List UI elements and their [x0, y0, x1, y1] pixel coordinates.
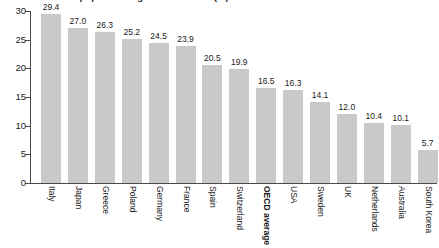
- category-label-text: Germany: [154, 186, 163, 221]
- category-label-text: Poland: [127, 186, 136, 212]
- category-label-text: Sweden: [316, 186, 325, 217]
- bar[interactable]: [229, 69, 249, 183]
- bar[interactable]: [95, 32, 115, 183]
- bar[interactable]: [418, 150, 438, 183]
- bar-value-label: 10.1: [385, 114, 417, 123]
- category-label-south-korea: South Korea: [418, 186, 438, 248]
- category-label-greece: Greece: [95, 186, 115, 248]
- bar-column[interactable]: 24.5: [149, 11, 169, 183]
- bar[interactable]: [364, 123, 384, 183]
- bar-value-label: 5.7: [412, 139, 439, 148]
- bar-column[interactable]: 26.3: [95, 11, 115, 183]
- bar-series: 29.427.026.325.224.523.920.519.916.516.3…: [30, 11, 437, 183]
- category-label-netherlands: Netherlands: [364, 186, 384, 248]
- category-label-text: Spain: [208, 186, 217, 208]
- bar-value-label: 16.3: [277, 79, 309, 88]
- y-tick-label: 20: [15, 62, 26, 73]
- y-tick-label: 25: [15, 34, 26, 45]
- category-label-text: France: [181, 186, 190, 212]
- category-label-text: OECD average: [262, 186, 271, 245]
- plot-area: 051015202530 29.427.026.325.224.523.920.…: [30, 11, 437, 183]
- category-label-text: South Korea: [423, 186, 432, 233]
- bar-column[interactable]: 10.4: [364, 11, 384, 183]
- bar-column[interactable]: 19.9: [229, 11, 249, 183]
- bar-column[interactable]: 25.2: [122, 11, 142, 183]
- bar[interactable]: [68, 28, 88, 183]
- bar-column[interactable]: 23.9: [176, 11, 196, 183]
- category-label-italy: Italy: [41, 186, 61, 248]
- bar[interactable]: [391, 125, 411, 183]
- category-label-japan: Japan: [68, 186, 88, 248]
- category-label-text: Italy: [47, 186, 56, 202]
- category-label-sweden: Sweden: [310, 186, 330, 248]
- category-label-text: Switzerland: [235, 186, 244, 230]
- bar-value-label: 12.0: [331, 103, 363, 112]
- category-label-germany: Germany: [149, 186, 169, 248]
- bar-column[interactable]: 16.3: [283, 11, 303, 183]
- category-label-switzerland: Switzerland: [229, 186, 249, 248]
- bar[interactable]: [202, 65, 222, 183]
- category-label-uk: UK: [337, 186, 357, 248]
- category-label-france: France: [176, 186, 196, 248]
- category-label-australia: Australia: [391, 186, 411, 248]
- bar[interactable]: [176, 46, 196, 183]
- y-tick-label: 5: [21, 148, 26, 159]
- bar[interactable]: [256, 88, 276, 183]
- category-label-text: Australia: [396, 186, 405, 219]
- category-label-text: UK: [342, 186, 351, 198]
- bar-column[interactable]: 10.1: [391, 11, 411, 183]
- category-label-text: USA: [289, 186, 298, 203]
- category-label-text: Greece: [100, 186, 109, 214]
- bar-column[interactable]: 29.4: [41, 11, 61, 183]
- category-axis-labels: ItalyJapanGreecePolandGermanyFranceSpain…: [30, 186, 437, 248]
- bar-column[interactable]: 5.7: [418, 11, 438, 183]
- category-label-text: Netherlands: [369, 186, 378, 232]
- bar[interactable]: [122, 39, 142, 183]
- category-label-text: Japan: [73, 186, 82, 209]
- category-label-usa: USA: [283, 186, 303, 248]
- bar-value-label: 14.1: [304, 91, 336, 100]
- bar-value-label: 23.9: [170, 35, 202, 44]
- category-label-oecd-average: OECD average: [256, 186, 276, 248]
- category-label-poland: Poland: [122, 186, 142, 248]
- bar[interactable]: [149, 43, 169, 183]
- bar[interactable]: [41, 14, 61, 183]
- bar[interactable]: [310, 102, 330, 183]
- bar-chart: Share of population aged 65 and over (%)…: [0, 0, 439, 248]
- y-tick-label: 0: [21, 177, 26, 188]
- y-tick-label: 30: [15, 5, 26, 16]
- bar-column[interactable]: 27.0: [68, 11, 88, 183]
- bar-column[interactable]: 14.1: [310, 11, 330, 183]
- category-label-spain: Spain: [202, 186, 222, 248]
- y-tick-label: 15: [15, 91, 26, 102]
- bar-column[interactable]: 16.5: [256, 11, 276, 183]
- y-tick-label: 10: [15, 120, 26, 131]
- bar[interactable]: [337, 114, 357, 183]
- bar-value-label: 19.9: [223, 58, 255, 67]
- chart-title: Share of population aged 65 and over (%): [0, 0, 439, 2]
- bar-column[interactable]: 12.0: [337, 11, 357, 183]
- bar[interactable]: [283, 90, 303, 183]
- x-axis-line: [30, 183, 437, 184]
- bar-value-label: 29.4: [35, 3, 67, 12]
- bar-column[interactable]: 20.5: [202, 11, 222, 183]
